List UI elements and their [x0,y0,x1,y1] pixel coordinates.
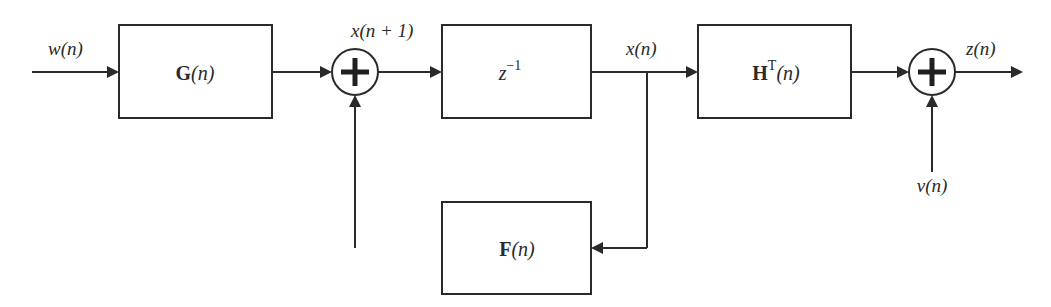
h-to-sum-connector [851,66,909,78]
output-connector [955,66,1023,78]
f-to-sum-connector [349,95,430,248]
arrowhead-icon [926,95,938,107]
state-next-label: x(n + 1) [350,20,413,42]
sum-to-delay-connector [378,66,442,78]
state-label: x(n) [625,38,657,60]
block-g: G(n) [119,25,272,118]
arrowhead-icon [349,95,361,107]
output-label: z(n) [965,38,996,60]
arrowhead-icon [591,242,603,254]
summing-junction-output [909,49,955,95]
g-to-sum-connector [272,66,332,78]
block-f-label: F(n) [499,238,535,261]
block-f: F(n) [442,202,591,294]
input-connector [32,66,119,78]
summing-junction-state [332,49,378,95]
delay-to-h-connector [591,66,698,78]
noise-connector [926,95,938,172]
block-h-label: HT(n) [752,58,800,85]
noise-label: v(n) [917,175,948,197]
state-to-f-connector [591,72,647,254]
input-signal-label: w(n) [48,38,83,60]
arrowhead-icon [897,66,909,78]
block-delay: z−1 [442,25,591,118]
arrowhead-icon [1011,66,1023,78]
block-h: HT(n) [698,25,851,118]
arrowhead-icon [107,66,119,78]
arrowhead-icon [430,66,442,78]
block-diagram: w(n) G(n) x(n + 1) z−1 x(n) HT(n) [0,0,1051,307]
block-g-label: G(n) [176,62,215,85]
arrowhead-icon [686,66,698,78]
arrowhead-icon [320,66,332,78]
